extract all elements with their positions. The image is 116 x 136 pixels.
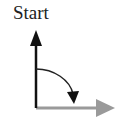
clockwise-rotation-arrow bbox=[36, 69, 79, 104]
horizontal-arrow bbox=[36, 99, 115, 117]
rotation-diagram bbox=[0, 0, 116, 136]
